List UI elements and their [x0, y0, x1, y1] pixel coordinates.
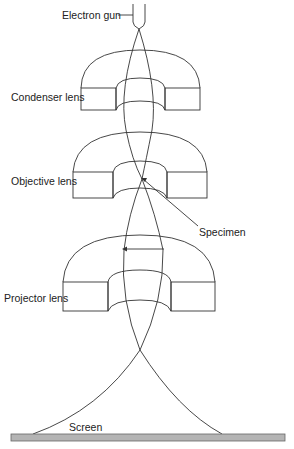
objective-lens — [73, 132, 207, 198]
specimen-label: Specimen — [199, 227, 246, 238]
electron-gun — [118, 4, 145, 29]
screen-label: Screen — [69, 422, 102, 433]
objective-lens-left-block — [73, 172, 113, 198]
tem-diagram — [0, 0, 294, 449]
condenser-lens-outer-arch — [81, 50, 200, 88]
projector-lens-outer-arch — [63, 235, 215, 282]
condenser-lens-label: Condenser lens — [11, 92, 85, 103]
electron-gun-label: Electron gun — [62, 10, 121, 21]
projector-lens-right-block — [171, 282, 215, 311]
condenser-lens-inner-top — [116, 78, 165, 88]
objective-lens-label: Objective lens — [11, 176, 77, 187]
condenser-lens — [81, 50, 200, 110]
condenser-lens-right-block — [165, 88, 200, 110]
objective-lens-right-block — [167, 172, 207, 198]
projector-lens-left-block — [63, 282, 108, 311]
condenser-lens-left-block — [81, 88, 116, 110]
projector-lens — [63, 235, 215, 311]
objective-lens-inner-top — [113, 161, 167, 172]
projector-lens-label: Projector lens — [4, 293, 68, 304]
objective-lens-outer-arch — [73, 132, 207, 172]
projector-lens-inner-bottom — [108, 300, 171, 311]
electron-gun-body — [133, 4, 145, 29]
screen-bar — [11, 434, 285, 441]
